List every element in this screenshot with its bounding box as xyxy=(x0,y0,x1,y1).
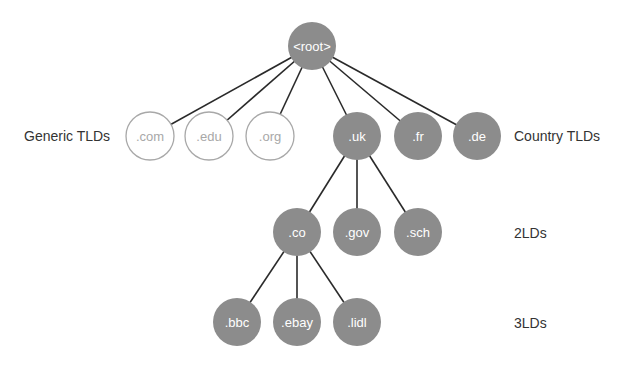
node-label: .fr xyxy=(412,129,424,144)
level-label-2lds: 2LDs xyxy=(514,225,547,241)
level-label-country-tlds: Country TLDs xyxy=(514,128,600,144)
node-sch: .sch xyxy=(394,208,442,256)
edge-root-de xyxy=(312,46,477,136)
node-root: <root> xyxy=(288,22,336,70)
node-label: .com xyxy=(136,129,164,144)
node-co: .co xyxy=(273,208,321,256)
dns-tree-diagram: <root>.com.edu.org.uk.fr.de.co.gov.sch.b… xyxy=(0,0,619,368)
node-ebay: .ebay xyxy=(273,298,321,346)
node-label: .sch xyxy=(406,225,430,240)
node-label: .org xyxy=(259,129,281,144)
node-label: .uk xyxy=(348,129,366,144)
node-label: .lidl xyxy=(347,315,367,330)
node-label: .gov xyxy=(345,225,370,240)
node-label: .de xyxy=(468,129,486,144)
node-gov: .gov xyxy=(333,208,381,256)
node-label: .ebay xyxy=(281,315,313,330)
node-de: .de xyxy=(453,112,501,160)
node-label: .bbc xyxy=(225,315,250,330)
nodes: <root>.com.edu.org.uk.fr.de.co.gov.sch.b… xyxy=(126,22,501,346)
node-lidl: .lidl xyxy=(333,298,381,346)
edges xyxy=(150,46,477,322)
node-com: .com xyxy=(126,112,174,160)
node-label: .co xyxy=(288,225,305,240)
node-org: .org xyxy=(246,112,294,160)
level-label-generic-tlds: Generic TLDs xyxy=(24,128,110,144)
node-bbc: .bbc xyxy=(213,298,261,346)
node-label: .edu xyxy=(196,129,221,144)
node-label: <root> xyxy=(293,39,331,54)
level-label-3lds: 3LDs xyxy=(514,315,547,331)
node-uk: .uk xyxy=(333,112,381,160)
node-fr: .fr xyxy=(394,112,442,160)
node-edu: .edu xyxy=(185,112,233,160)
